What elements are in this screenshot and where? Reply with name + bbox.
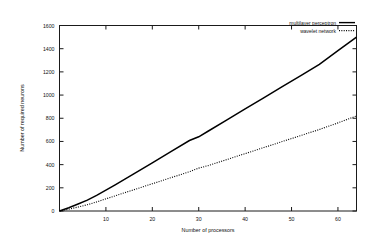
x-tick-label: 20: [149, 216, 155, 222]
legend-label-wavelet-network: wavelet network: [300, 28, 336, 34]
line-chart-svg: 02004006008001000120014001600 1020304050…: [0, 0, 378, 238]
x-axis-title: Number of processors: [181, 227, 234, 233]
y-axis-title: Number of required neurons: [19, 84, 25, 152]
x-tick-label: 30: [196, 216, 202, 222]
y-tick-label: 400: [46, 162, 55, 168]
y-tick-label: 1400: [43, 46, 55, 52]
y-tick-label: 0: [52, 208, 55, 214]
y-tick-label: 1200: [43, 69, 55, 75]
y-tick-label: 200: [46, 185, 55, 191]
y-tick-label: 1000: [43, 92, 55, 98]
y-tick-label: 600: [46, 138, 55, 144]
legend-label-multilayer-perceptron: multilayer perceptron: [289, 20, 336, 26]
chart-figure: 02004006008001000120014001600 1020304050…: [0, 0, 378, 238]
x-tick-label: 10: [103, 216, 109, 222]
y-tick-label: 800: [46, 115, 55, 121]
x-tick-label: 60: [335, 216, 341, 222]
x-tick-label: 40: [242, 216, 248, 222]
x-tick-label: 50: [289, 216, 295, 222]
chart-background: [0, 0, 378, 238]
y-tick-label: 1600: [43, 23, 55, 29]
